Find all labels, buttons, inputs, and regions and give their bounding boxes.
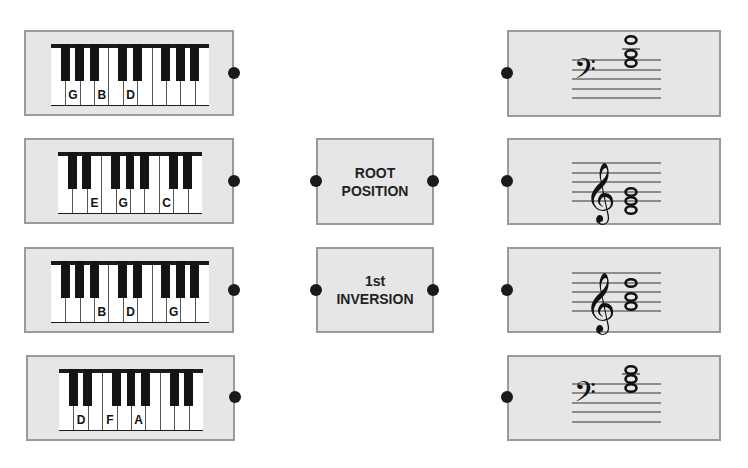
connector-dot-right-3[interactable] xyxy=(501,284,513,296)
keyboard-card-2[interactable]: EGC xyxy=(24,138,234,224)
black-key-g-sharp[interactable] xyxy=(127,369,136,406)
key-label: G xyxy=(117,196,130,210)
keyboard-card-1[interactable]: GBD xyxy=(24,30,234,116)
black-key-d-sharp[interactable] xyxy=(183,152,192,189)
category-label-line2: INVERSION xyxy=(318,290,432,308)
treble-clef-icon: 𝄞 xyxy=(585,272,616,335)
black-key-g-sharp[interactable] xyxy=(176,44,185,81)
staff-card-4[interactable]: 𝄢 xyxy=(507,355,721,441)
black-key-c-sharp[interactable] xyxy=(69,369,78,406)
piano-keyboard: GBD xyxy=(51,44,209,106)
category-label-line2: POSITION xyxy=(318,182,432,200)
connector-dot-left-4[interactable] xyxy=(229,391,241,403)
key-label: D xyxy=(74,413,87,427)
connector-dot-mid-left-2[interactable] xyxy=(310,284,322,296)
key-label: B xyxy=(95,88,108,102)
black-key-g-sharp[interactable] xyxy=(75,261,84,298)
key-label: D xyxy=(124,305,137,319)
black-key-c-sharp[interactable] xyxy=(68,152,77,189)
black-key-a-sharp[interactable] xyxy=(90,261,99,298)
piano-keyboard: DFA xyxy=(59,369,203,431)
connector-dot-left-1[interactable] xyxy=(228,67,240,79)
black-key-f-sharp[interactable] xyxy=(61,261,70,298)
bass-clef-staff: 𝄢 xyxy=(509,357,723,443)
piano-keyboard: BDG xyxy=(51,261,209,323)
black-key-a-sharp[interactable] xyxy=(90,44,99,81)
connector-dot-right-1[interactable] xyxy=(501,67,513,79)
category-label-line1: ROOT xyxy=(318,164,432,182)
key-label: G xyxy=(167,305,180,319)
category-card-1st-inversion[interactable]: 1st INVERSION xyxy=(316,247,434,333)
connector-dot-right-2[interactable] xyxy=(501,175,513,187)
key-label: C xyxy=(160,196,173,210)
staff-card-3[interactable]: 𝄞 xyxy=(507,247,721,333)
keyboard-card-4[interactable]: DFA xyxy=(26,355,235,441)
black-key-g-sharp[interactable] xyxy=(75,44,84,81)
black-key-d-sharp[interactable] xyxy=(82,152,91,189)
black-key-f-sharp[interactable] xyxy=(161,261,170,298)
bass-clef-icon: 𝄢 xyxy=(574,52,596,92)
piano-keyboard: EGC xyxy=(58,152,202,214)
treble-clef-icon: 𝄞 xyxy=(585,162,616,225)
black-key-c-sharp[interactable] xyxy=(118,44,127,81)
keyboard-card-3[interactable]: BDG xyxy=(24,247,234,333)
black-key-f-sharp[interactable] xyxy=(161,44,170,81)
key-label: B xyxy=(95,305,108,319)
category-label-line1: 1st xyxy=(318,272,432,290)
treble-clef-staff: 𝄞 xyxy=(509,249,723,335)
black-key-g-sharp[interactable] xyxy=(176,261,185,298)
connector-dot-mid-left-1[interactable] xyxy=(310,175,322,187)
black-key-d-sharp[interactable] xyxy=(184,369,193,406)
bass-clef-icon: 𝄢 xyxy=(574,375,596,415)
black-key-c-sharp[interactable] xyxy=(118,261,127,298)
connector-dot-mid-right-2[interactable] xyxy=(427,284,439,296)
key-label: G xyxy=(66,88,79,102)
key-label: F xyxy=(103,413,116,427)
bass-clef-staff: 𝄢 xyxy=(509,32,723,119)
black-key-f-sharp[interactable] xyxy=(61,44,70,81)
black-key-c-sharp[interactable] xyxy=(170,369,179,406)
connector-dot-left-2[interactable] xyxy=(228,175,240,187)
category-label: ROOT POSITION xyxy=(318,164,432,200)
black-key-a-sharp[interactable] xyxy=(140,152,149,189)
black-key-g-sharp[interactable] xyxy=(126,152,135,189)
category-card-root-position[interactable]: ROOT POSITION xyxy=(316,138,434,225)
black-key-a-sharp[interactable] xyxy=(190,261,199,298)
key-label: D xyxy=(124,88,137,102)
connector-dot-mid-right-1[interactable] xyxy=(427,175,439,187)
black-key-a-sharp[interactable] xyxy=(141,369,150,406)
black-key-c-sharp[interactable] xyxy=(169,152,178,189)
connector-dot-left-3[interactable] xyxy=(228,284,240,296)
staff-card-2[interactable]: 𝄞 xyxy=(507,138,721,225)
black-key-d-sharp[interactable] xyxy=(133,261,142,298)
black-key-f-sharp[interactable] xyxy=(111,152,120,189)
black-key-d-sharp[interactable] xyxy=(83,369,92,406)
connector-dot-right-4[interactable] xyxy=(501,391,513,403)
key-label: E xyxy=(88,196,101,210)
black-key-f-sharp[interactable] xyxy=(112,369,121,406)
staff-card-1[interactable]: 𝄢 xyxy=(507,30,721,117)
treble-clef-staff: 𝄞 xyxy=(509,140,723,227)
black-key-a-sharp[interactable] xyxy=(190,44,199,81)
black-key-d-sharp[interactable] xyxy=(133,44,142,81)
key-label: A xyxy=(132,413,145,427)
category-label: 1st INVERSION xyxy=(318,272,432,308)
